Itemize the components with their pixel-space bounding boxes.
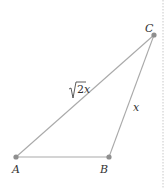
triangle-diagram: A B C 2 x x	[0, 0, 167, 189]
label-ac-radicand: 2	[77, 83, 84, 96]
label-a: A	[11, 163, 20, 176]
label-ac-var: x	[84, 83, 91, 96]
label-bc: x	[133, 101, 140, 114]
edge-bc	[109, 35, 154, 157]
label-ac: 2 x	[69, 82, 91, 98]
point-a	[13, 154, 18, 159]
label-b: B	[99, 163, 108, 176]
label-c: C	[145, 22, 154, 35]
point-b	[106, 154, 111, 159]
edge-ac	[16, 35, 154, 157]
